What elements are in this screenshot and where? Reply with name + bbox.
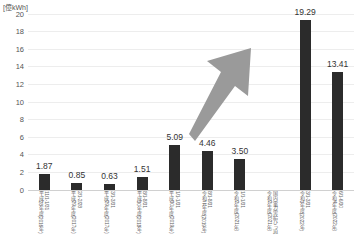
x-axis-label-period: 11/1-1/31 (44, 191, 50, 210)
x-axis-label: 平成30年度(2018年)8/1-8/31 (136, 191, 148, 249)
x-axis-label: 平成28年度(2016年)11/1-1/31 (38, 191, 50, 249)
y-axis-tick-10: 10 (16, 97, 24, 106)
x-axis-label-period: 8/1-8/31 (142, 191, 148, 208)
y-axis-tick-4: 4 (20, 150, 24, 159)
y-axis-tick-18: 18 (16, 27, 24, 36)
bar-value-label: 3.50 (232, 146, 249, 156)
bar-value-label: 1.51 (134, 164, 151, 174)
bar-chart: [億kWh] 024681012141618201.870.850.631.51… (0, 0, 358, 251)
bar (234, 159, 245, 190)
x-axis-label-period: 3/1-3/31 (305, 191, 311, 208)
x-axis-label: 平成30年度(2019年)1/1-1/31 (169, 191, 181, 249)
x-axis-label-period: 3/1-3/31 (110, 191, 116, 208)
x-axis-label-period: 6/1-6/30 (338, 191, 344, 208)
x-axis-label-band: 平成28年度(2016年)11/1-1/31平成29年度(2017年)2/1-2… (28, 191, 354, 251)
x-axis-label-period: 2/1-2/28 (77, 191, 83, 208)
y-axis-tick-16: 16 (16, 44, 24, 53)
x-axis-label: 令和4年度(2022年)6/1-6/30 (332, 191, 344, 249)
bar-value-label: 1.87 (36, 161, 53, 171)
bar-value-label: 0.63 (101, 171, 118, 181)
bar-value-label: 4.46 (199, 138, 216, 148)
x-axis-label-period: 1/1-1/31 (175, 191, 181, 208)
y-axis-tick-8: 8 (20, 115, 24, 124)
y-axis-tick-12: 12 (16, 79, 24, 88)
x-axis-label: 令和元年度(2019年)8/1-8/31 (201, 191, 213, 249)
y-axis-tick-2: 2 (20, 167, 24, 176)
bar (71, 183, 82, 190)
x-axis-label: 平成29年度(2017年)2/1-2/28 (71, 191, 83, 249)
x-axis-label: 令和3年度(2022年)3/1-3/31 (299, 191, 311, 249)
bar-value-label: 5.09 (166, 132, 183, 142)
bar-value-label: 19.29 (294, 7, 315, 17)
bar (104, 184, 115, 190)
bar-value-label: 0.85 (69, 170, 86, 180)
x-axis-label: 令和2年度(2021年)1/1-1/31 (234, 191, 246, 249)
plot-area: 024681012141618201.870.850.631.515.094.4… (28, 14, 354, 190)
bar (39, 174, 50, 190)
y-axis-tick-20: 20 (16, 9, 24, 18)
bar (300, 20, 311, 190)
x-axis-label-period: 国内電力需給ひっ迫 (273, 191, 279, 234)
x-axis-label-period: 1/1-1/31 (240, 191, 246, 208)
bar (137, 177, 148, 190)
bar (169, 145, 180, 190)
bar-value-label: 13.41 (327, 59, 348, 69)
x-axis-label: 平成29年度(2017年)3/1-3/31 (104, 191, 116, 249)
y-axis-tick-14: 14 (16, 62, 24, 71)
x-axis-label-period: 8/1-8/31 (207, 191, 213, 208)
bar (202, 151, 213, 190)
x-axis-label: 令和2年度(2021年)国内電力需給ひっ迫 (267, 191, 279, 249)
y-axis-tick-6: 6 (20, 132, 24, 141)
bar (332, 72, 343, 190)
y-axis-tick-0: 0 (20, 185, 24, 194)
